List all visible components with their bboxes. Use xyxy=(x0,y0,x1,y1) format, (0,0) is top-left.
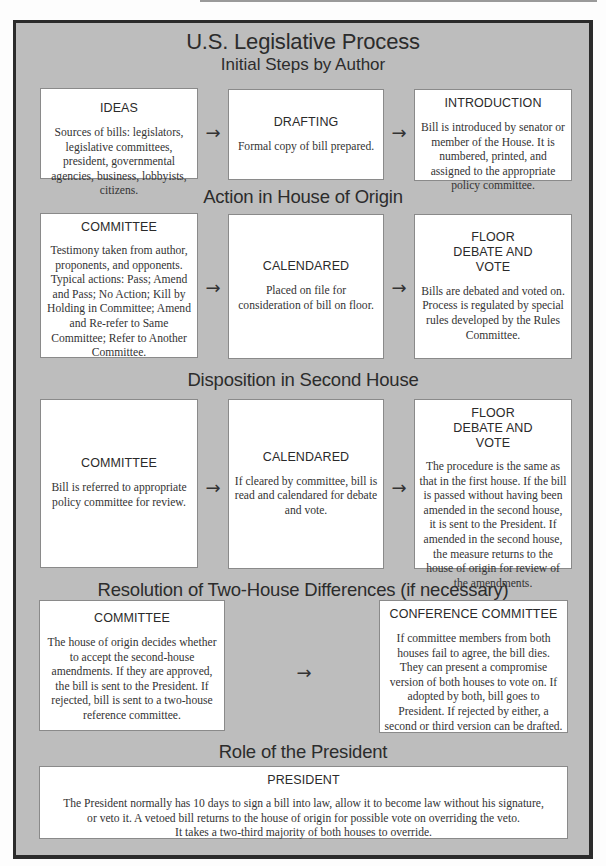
section-heading: Role of the President xyxy=(0,741,606,763)
step-title: PRESIDENT xyxy=(267,773,339,788)
step-title: CALENDARED xyxy=(263,259,349,274)
step-body: Testimony taken from author, proponents,… xyxy=(41,244,197,361)
arrow-right-icon: → xyxy=(385,479,413,497)
step-title: IDEAS xyxy=(100,101,138,116)
step-body-line: or veto it. A vetoed bill returns to the… xyxy=(87,812,520,827)
step-ideas: IDEAS Sources of bills: legislators, leg… xyxy=(40,88,198,179)
step-body: The procedure is the same as that in the… xyxy=(415,460,571,591)
step-committee-origin: COMMITTEE Testimony taken from author, p… xyxy=(40,213,198,358)
section-heading: Resolution of Two-House Differences (if … xyxy=(0,579,606,601)
step-drafting: DRAFTING Formal copy of bill prepared. xyxy=(228,89,384,180)
section-heading: Action in House of Origin xyxy=(0,186,606,208)
step-title: COMMITTEE xyxy=(94,611,170,626)
step-president: PRESIDENT The President normally has 10 … xyxy=(39,766,568,839)
step-body: Formal copy of bill prepared. xyxy=(238,140,374,155)
step-title: CONFERENCE COMMITTEE xyxy=(390,607,558,622)
step-title: COMMITTEE xyxy=(81,456,157,471)
step-conference-committee: CONFERENCE COMMITTEE If committee member… xyxy=(379,600,568,733)
step-body: Bills are debated and voted on. Process … xyxy=(415,285,571,343)
step-title: DRAFTING xyxy=(274,115,339,130)
diagram-title: U.S. Legislative Process xyxy=(0,29,606,55)
step-committee-resolution: COMMITTEE The house of origin decides wh… xyxy=(39,600,225,731)
step-body-line: It takes a two-third majority of both ho… xyxy=(175,826,432,841)
arrow-right-icon: → xyxy=(199,479,227,497)
step-title: COMMITTEE xyxy=(81,220,157,235)
step-calendared-origin: CALENDARED Placed on file for considerat… xyxy=(228,214,384,359)
step-body: Bill is referred to appropriate policy c… xyxy=(41,481,197,510)
step-body-line: The President normally has 10 days to si… xyxy=(63,797,544,812)
step-body: The house of origin decides whether to a… xyxy=(40,636,224,724)
step-floor-second: FLOOR DEBATE AND VOTE The procedure is t… xyxy=(414,399,572,569)
arrow-right-icon: → xyxy=(385,279,413,297)
step-body: If cleared by committee, bill is read an… xyxy=(229,475,383,519)
step-title: INTRODUCTION xyxy=(444,96,541,111)
step-introduction: INTRODUCTION Bill is introduced by senat… xyxy=(414,89,572,181)
step-title: FLOOR DEBATE AND VOTE xyxy=(415,230,571,275)
step-body: If committee members from both houses fa… xyxy=(380,632,567,734)
arrow-right-icon: → xyxy=(199,279,227,297)
step-body: Placed on file for consideration of bill… xyxy=(229,284,383,313)
step-title: FLOOR DEBATE AND VOTE xyxy=(415,406,571,451)
arrow-right-icon: → xyxy=(385,124,413,142)
step-floor-origin: FLOOR DEBATE AND VOTE Bills are debated … xyxy=(414,214,572,359)
top-rule xyxy=(200,0,597,2)
step-calendared-second: CALENDARED If cleared by committee, bill… xyxy=(228,399,384,569)
step-committee-second: COMMITTEE Bill is referred to appropriat… xyxy=(40,399,198,568)
step-title: CALENDARED xyxy=(263,450,349,465)
step-body: Bill is introduced by senator or member … xyxy=(415,121,571,194)
arrow-right-icon: → xyxy=(199,124,227,142)
section-heading: Disposition in Second House xyxy=(0,369,606,391)
arrow-right-icon: → xyxy=(290,664,318,682)
diagram-subtitle: Initial Steps by Author xyxy=(0,55,606,75)
